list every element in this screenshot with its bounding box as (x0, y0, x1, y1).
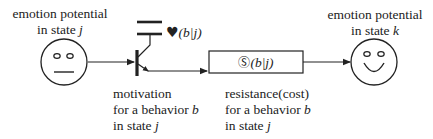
motivation-caption: motivation for a behavior b in state j (113, 86, 199, 133)
resistance-caption-line3: in state j (225, 118, 271, 133)
motivation-symbol-label: ♥(b|j) (166, 24, 202, 40)
smiling-face-icon (351, 39, 397, 85)
heart-icon: ♥ (166, 24, 179, 40)
left-state-title-line2: in state j (37, 22, 83, 37)
neutral-face-icon (41, 39, 87, 85)
resistance-circled-icon: Ⓢ (238, 56, 250, 70)
right-state-title: emotion potential in state k (328, 7, 423, 38)
left-state-title: emotion potential in state j (13, 6, 108, 37)
motivation-caption-line1: motivation (113, 86, 172, 101)
resistance-caption-line1: resistance(cost) (225, 86, 309, 101)
resistance-caption: resistance(cost) for a behavior b in sta… (225, 86, 311, 133)
motivation-caption-line3: in state j (113, 118, 159, 133)
right-state-title-line2: in state k (351, 23, 400, 38)
resistance-caption-line2: for a behavior b (225, 102, 311, 117)
transistor-icon (137, 22, 162, 76)
resistance-symbol-label: Ⓢ(b|j) (238, 55, 274, 70)
motivation-caption-line2: for a behavior b (113, 102, 199, 117)
emotion-transition-diagram: emotion potential in state j ♥(b|j) Ⓢ(b|… (0, 0, 433, 139)
right-state-title-line1: emotion potential (328, 7, 423, 22)
left-state-title-line1: emotion potential (13, 6, 108, 21)
